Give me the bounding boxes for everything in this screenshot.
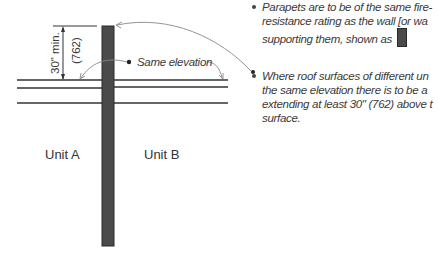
note-line: resistance rating as the wall [or wa (262, 14, 438, 28)
note-line: the same elevation there is to be a (262, 83, 438, 97)
wall-swatch-icon (397, 28, 407, 47)
note-line-text: supporting them, shown as (262, 33, 392, 45)
bullet-icon (252, 74, 256, 78)
note-line: supporting them, shown as (262, 28, 438, 47)
unit-a-label: Unit A (45, 147, 80, 162)
dimension-metric-label: (762) (70, 37, 82, 64)
dimension-arrow-bottom (61, 74, 65, 80)
note-line: surface. (262, 111, 438, 125)
note-line: Where roof surfaces of different un (262, 69, 438, 83)
fire-wall (102, 26, 114, 246)
same-elevation-label: Same elevation (137, 56, 212, 68)
note-line: Parapets are to be of the same fire- (262, 0, 438, 14)
dimension-imperial-label: 30" min. (49, 32, 61, 74)
callout-dot (127, 60, 131, 64)
dimension-arrow-top (61, 26, 65, 32)
unit-b-label: Unit B (144, 147, 179, 162)
notes-list: Parapets are to be of the same fire- res… (250, 0, 438, 103)
bullet-icon (252, 5, 256, 9)
note-parapet-rating: Parapets are to be of the same fire- res… (250, 0, 438, 47)
note-roof-elevation: Where roof surfaces of different un the … (250, 69, 438, 125)
note-line: extending at least 30" (762) above t (262, 97, 438, 111)
